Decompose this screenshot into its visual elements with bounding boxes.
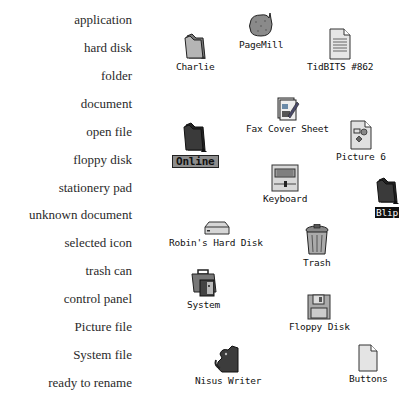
icon-label[interactable]: Floppy Disk bbox=[288, 321, 351, 332]
desktop-icon-buttons[interactable]: Buttons bbox=[348, 344, 389, 384]
folder-icon bbox=[179, 32, 211, 60]
icon-label[interactable]: Nisus Writer bbox=[194, 375, 262, 386]
desktop-icon-online[interactable]: Online bbox=[172, 120, 219, 168]
icon-label[interactable]: Picture 6 bbox=[335, 151, 387, 162]
desktop-icon-blip[interactable]: Blip bbox=[372, 176, 402, 218]
floppy-disk-icon bbox=[306, 294, 332, 320]
control-panel-icon bbox=[270, 164, 300, 192]
desktop-icon-keyboard[interactable]: Keyboard bbox=[262, 164, 308, 204]
desktop-icon-nisus-writer[interactable]: Nisus Writer bbox=[194, 344, 262, 386]
icon-label[interactable]: Keyboard bbox=[262, 193, 308, 204]
legend-document: document bbox=[81, 96, 132, 112]
legend-folder: folder bbox=[101, 68, 132, 84]
icon-label[interactable]: TidBITS #862 bbox=[306, 61, 374, 72]
document-icon bbox=[327, 28, 353, 60]
desktop-icon-system[interactable]: System bbox=[186, 268, 221, 310]
legend-trash-can: trash can bbox=[85, 263, 132, 279]
legend-hard-disk: hard disk bbox=[84, 40, 132, 56]
icon-label[interactable]: Robin's Hard Disk bbox=[168, 237, 264, 248]
desktop-icon-tidbits[interactable]: TidBITS #862 bbox=[306, 28, 374, 72]
application-icon bbox=[212, 344, 244, 374]
icon-label[interactable]: PageMill bbox=[238, 39, 284, 50]
desktop-icon-picture-6[interactable]: Picture 6 bbox=[335, 120, 387, 162]
desktop-icon-floppy-disk[interactable]: Floppy Disk bbox=[288, 294, 351, 332]
stationery-pad-icon bbox=[274, 96, 300, 122]
picture-file-icon bbox=[348, 120, 374, 150]
icon-label[interactable]: Trash bbox=[302, 257, 332, 268]
folder-icon bbox=[372, 176, 402, 206]
legend-selected-icon: selected icon bbox=[65, 235, 133, 251]
legend-open-file: open file bbox=[86, 124, 132, 140]
application-icon bbox=[245, 12, 277, 38]
icon-label[interactable]: Buttons bbox=[348, 373, 389, 384]
desktop-icon-fax-cover-sheet[interactable]: Fax Cover Sheet bbox=[245, 96, 330, 134]
legend-picture-file: Picture file bbox=[75, 319, 132, 335]
legend-ready-to-rename: ready to rename bbox=[48, 375, 132, 391]
legend-stationery-pad: stationery pad bbox=[59, 180, 132, 196]
legend-system-file: System file bbox=[73, 347, 132, 363]
icon-label[interactable]: Charlie bbox=[175, 61, 216, 72]
folder-icon bbox=[178, 120, 212, 154]
trash-can-icon bbox=[304, 224, 330, 256]
desktop-icon-charlie[interactable]: Charlie bbox=[175, 32, 216, 72]
unknown-document-icon bbox=[356, 344, 380, 372]
legend-unknown-document: unknown document bbox=[29, 207, 132, 223]
icon-label-selected[interactable]: Blip bbox=[375, 207, 399, 218]
icon-label[interactable]: Fax Cover Sheet bbox=[245, 123, 330, 134]
desktop-icon-robins-hard-disk[interactable]: Robin's Hard Disk bbox=[168, 220, 264, 248]
legend-floppy-disk: floppy disk bbox=[73, 152, 132, 168]
legend-control-panel: control panel bbox=[64, 291, 132, 307]
hard-disk-icon bbox=[201, 220, 231, 236]
desktop-icon-trash[interactable]: Trash bbox=[302, 224, 332, 268]
system-file-icon bbox=[189, 268, 219, 298]
legend-application: application bbox=[74, 12, 132, 28]
icon-label[interactable]: System bbox=[186, 299, 221, 310]
desktop-icon-pagemill[interactable]: PageMill bbox=[238, 12, 284, 50]
icon-label-rename-field[interactable]: Online bbox=[172, 155, 219, 168]
